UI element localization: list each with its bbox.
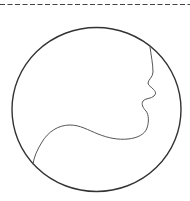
face-profile-line: [33, 47, 156, 164]
illustration-svg: [0, 0, 190, 201]
circle-outline: [12, 28, 181, 192]
profile-illustration: [0, 0, 190, 201]
